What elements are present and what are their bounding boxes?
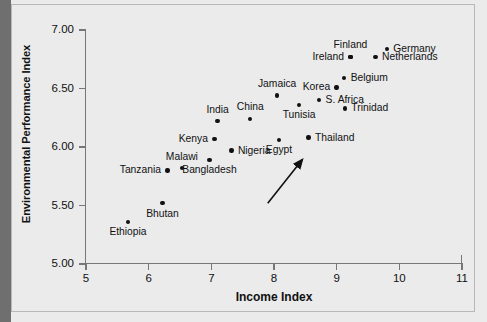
x-tick: [85, 263, 86, 270]
x-tick: [399, 263, 400, 270]
y-tick: [79, 146, 86, 147]
data-point: [275, 93, 279, 97]
y-tick-label: 5.00: [32, 258, 74, 270]
y-tick: [79, 88, 86, 89]
x-tick-label: 5: [71, 272, 101, 284]
data-point-label: Korea: [303, 82, 330, 93]
data-point-label: Bangladesh: [182, 165, 236, 176]
chart-figure: Environmental Performance Index Income I…: [0, 0, 487, 322]
data-point: [126, 220, 130, 224]
x-tick-label: 11: [447, 272, 477, 284]
data-point-label: Kenya: [179, 134, 208, 145]
data-point-label: Malawi: [166, 151, 198, 162]
x-tick: [148, 263, 149, 270]
data-point-label: Germany: [393, 43, 435, 54]
x-tick: [461, 263, 462, 270]
x-tick-label: 7: [196, 272, 226, 284]
data-point-label: Tanzania: [120, 165, 161, 176]
data-point-label: Ethiopia: [109, 227, 146, 238]
y-tick-label: 7.00: [32, 24, 74, 36]
x-tick: [336, 263, 337, 270]
data-point-label: China: [237, 102, 264, 113]
data-point: [297, 103, 301, 107]
x-tick: [273, 263, 274, 270]
data-point: [212, 137, 216, 141]
data-point: [306, 135, 310, 139]
data-point-label: Bhutan: [146, 209, 179, 220]
data-point: [385, 47, 389, 51]
x-tick-label: 6: [134, 272, 164, 284]
y-tick-label: 6.00: [32, 141, 74, 153]
data-point: [342, 76, 346, 80]
data-point-label: Ireland: [312, 52, 343, 63]
data-point: [165, 168, 169, 172]
x-tick: [211, 263, 212, 270]
page-edge-band: [0, 0, 11, 322]
y-tick-label: 5.50: [32, 200, 74, 212]
y-tick-label: 6.50: [32, 83, 74, 95]
y-tick: [79, 29, 86, 30]
data-point-label: Thailand: [315, 132, 355, 143]
data-point: [248, 117, 252, 121]
data-point: [343, 106, 347, 110]
data-point: [348, 55, 352, 59]
data-point-label: Belgium: [351, 73, 388, 84]
data-point-label: India: [206, 104, 228, 115]
data-point-label: Tunisia: [283, 110, 316, 121]
data-point-label: Trinidad: [351, 103, 388, 114]
y-tick: [79, 205, 86, 206]
x-tick-label: 8: [259, 272, 289, 284]
data-point-label: Finland: [334, 40, 368, 51]
plot-area: EthiopiaBhutanTanzaniaMalawiBangladeshKe…: [86, 30, 462, 264]
data-point: [373, 55, 377, 59]
data-point: [160, 201, 164, 205]
data-point: [229, 148, 233, 152]
data-point-label: Jamaica: [258, 79, 296, 90]
data-point: [277, 138, 281, 142]
x-tick-label: 9: [322, 272, 352, 284]
data-point: [215, 119, 219, 123]
data-point: [317, 98, 321, 102]
data-point: [207, 158, 211, 162]
data-point: [334, 85, 338, 89]
data-point-label: Egypt: [266, 145, 292, 156]
x-tick-label: 10: [384, 272, 414, 284]
x-axis-title: Income Index: [86, 290, 462, 304]
